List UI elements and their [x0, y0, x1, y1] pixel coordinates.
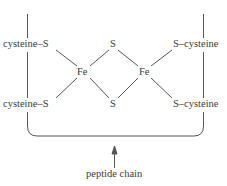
bond-cys-tl-fe-left: [56, 50, 77, 66]
iron-sulfur-diagram: cysteine–S cysteine–S S–cysteine S–cyste…: [0, 0, 227, 186]
label-cysteine-top-right: S–cysteine: [173, 38, 219, 50]
label-cysteine-bottom-right: S–cysteine: [173, 98, 219, 110]
label-iron-left: Fe: [77, 66, 88, 78]
bond-s-top-fe-right: [118, 50, 138, 66]
diagram-lines: [0, 0, 227, 186]
label-peptide-chain: peptide chain: [86, 168, 142, 180]
label-sulfur-bridge-bottom: S: [110, 98, 116, 110]
bond-cys-bl-fe-left: [56, 78, 77, 98]
bond-fe-right-cys-br: [151, 78, 172, 98]
label-iron-right: Fe: [139, 66, 150, 78]
label-sulfur-bridge-top: S: [110, 38, 116, 50]
label-cysteine-top-left: cysteine–S: [3, 38, 49, 50]
bond-fe-right-cys-tr: [151, 50, 172, 66]
bond-fe-left-s-top: [90, 50, 109, 66]
arrow-head-icon: [112, 146, 117, 154]
peptide-bottom-curve: [28, 112, 204, 136]
bond-s-bottom-fe-right: [118, 78, 138, 98]
bond-fe-left-s-bottom: [90, 78, 109, 98]
label-cysteine-bottom-left: cysteine–S: [3, 98, 49, 110]
